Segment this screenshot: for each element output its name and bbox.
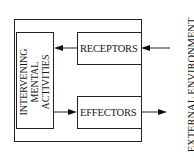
arrow-effectors-to-environment-icon bbox=[158, 109, 167, 115]
arrows bbox=[0, 0, 194, 167]
arrow-mind-to-effectors-icon bbox=[68, 109, 77, 115]
arrow-receptors-to-mind-icon bbox=[54, 45, 63, 51]
arrow-environment-to-receptors-icon bbox=[141, 45, 150, 51]
external-environment-label: EXTERNAL ENVIRONMENT bbox=[186, 10, 194, 160]
